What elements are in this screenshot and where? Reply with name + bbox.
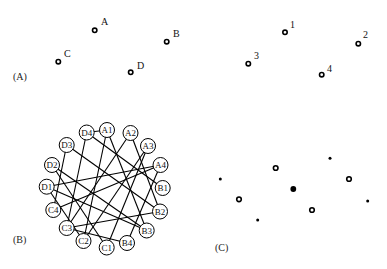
ring-point (237, 197, 242, 202)
number-point-label: 4 (327, 63, 332, 74)
letter-point-label: A (101, 16, 109, 27)
panel-label-a: (A) (13, 71, 27, 83)
small-dot-point (366, 200, 369, 203)
graph-node-label: A4 (155, 160, 166, 170)
letter-point-A (93, 28, 97, 32)
small-dot-point (219, 178, 222, 181)
small-dot-point (256, 219, 259, 222)
letter-point-D (129, 70, 133, 74)
letter-point-label: C (64, 48, 71, 59)
letter-point-label: D (137, 60, 144, 71)
graph-node-label: C2 (78, 236, 89, 246)
small-dot-point (329, 157, 332, 160)
letter-point-C (56, 60, 60, 64)
graph-node-label: B1 (157, 183, 168, 193)
number-point-4 (320, 73, 324, 77)
graph-node-label: C4 (48, 205, 59, 215)
graph-node-label: A3 (143, 141, 154, 151)
graph-node-label: D2 (47, 160, 58, 170)
number-point-label: 1 (290, 19, 295, 30)
panel-b-graph: D4A1A2A3A4B1B2B3B4C1C2C3C4D1D2D3 (39, 123, 170, 256)
letter-point-label: B (173, 28, 180, 39)
panel-label-c: (C) (215, 242, 228, 254)
panel-c-points (219, 157, 369, 222)
graph-node-label: D3 (61, 140, 72, 150)
ring-point (273, 166, 278, 171)
graph-node-label: A2 (125, 128, 136, 138)
graph-node-label: B4 (122, 238, 133, 248)
graph-node-label: D1 (41, 182, 52, 192)
ring-point (310, 208, 315, 213)
graph-node-label: D4 (81, 128, 92, 138)
graph-node-label: A1 (102, 125, 113, 135)
number-point-label: 2 (363, 29, 368, 40)
panel-label-b: (B) (13, 234, 26, 246)
ring-point (347, 177, 352, 182)
graph-node-label: C3 (61, 223, 72, 233)
graph-node-label: B2 (155, 207, 166, 217)
large-dot-point (290, 186, 296, 192)
number-point-label: 3 (254, 50, 259, 61)
figure-canvas: ABCD 1234 D4A1A2A3A4B1B2B3B4C1C2C3C4D1D2… (0, 0, 387, 269)
letter-point-B (165, 40, 169, 44)
graph-node-label: B3 (141, 226, 152, 236)
number-point-1 (283, 30, 287, 34)
number-point-3 (246, 62, 250, 66)
panel-numbered-points: 1234 (246, 19, 368, 77)
panel-a-points: ABCD (56, 16, 180, 75)
number-point-2 (356, 42, 360, 46)
graph-node-label: C1 (101, 243, 112, 253)
